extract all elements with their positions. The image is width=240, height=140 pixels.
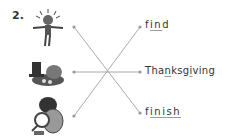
right-dot-3 (138, 111, 141, 114)
right-dot-1 (138, 25, 141, 28)
left-dot-1 (72, 25, 75, 28)
word-find: find (145, 19, 170, 30)
right-dot-2 (138, 70, 141, 73)
word-thanksgiving: Thanksgiving (145, 65, 215, 76)
word-finish: finish (145, 106, 181, 117)
left-dot-3 (72, 114, 75, 117)
left-dot-2 (72, 70, 75, 73)
